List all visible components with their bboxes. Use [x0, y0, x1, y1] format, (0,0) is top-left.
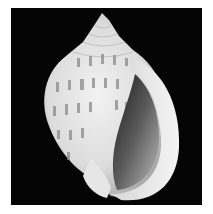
photo-frame	[11, 8, 202, 205]
seashell-photo	[11, 8, 202, 205]
